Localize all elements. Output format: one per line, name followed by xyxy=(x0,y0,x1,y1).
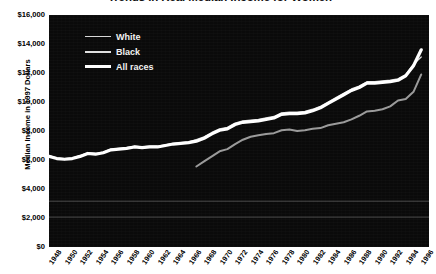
y-tick-label: $12,000 xyxy=(1,69,45,77)
y-tick-label: $4,000 xyxy=(1,185,45,193)
plot-area: WhiteBlackAll races xyxy=(49,15,429,247)
x-axis-tick-labels: 1948195019521954195619581960196219641966… xyxy=(0,248,436,274)
legend-line-swatch xyxy=(85,36,111,37)
chart-legend: WhiteBlackAll races xyxy=(85,29,154,74)
y-tick-label: $16,000 xyxy=(1,11,45,19)
legend-label: All races xyxy=(116,62,154,72)
y-tick-label: $8,000 xyxy=(1,127,45,135)
chart-figure: Trends in Real Median Income for Women M… xyxy=(0,0,436,274)
legend-label: White xyxy=(116,32,141,42)
legend-label: Black xyxy=(116,47,140,57)
y-tick-label: $14,000 xyxy=(1,40,45,48)
chart-title: Trends in Real Median Income for Women xyxy=(70,0,370,5)
legend-line-swatch xyxy=(85,51,111,53)
legend-item: Black xyxy=(85,44,154,59)
legend-item: All races xyxy=(85,59,154,74)
legend-line-swatch xyxy=(85,65,111,68)
y-tick-label: $2,000 xyxy=(1,214,45,222)
y-tick-label: $6,000 xyxy=(1,156,45,164)
legend-item: White xyxy=(85,29,154,44)
series-line-black xyxy=(196,74,421,166)
y-tick-label: $10,000 xyxy=(1,98,45,106)
y-axis-tick-labels: $0$2,000$4,000$6,000$8,000$10,000$12,000… xyxy=(0,0,45,274)
